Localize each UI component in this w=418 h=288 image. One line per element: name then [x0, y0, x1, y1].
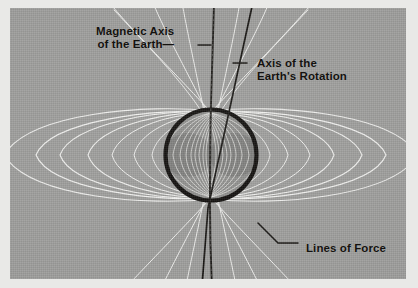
label-lines-of-force-text: Lines of Force — [306, 242, 386, 255]
figure-root: Magnetic Axis of the Earth— Axis of the … — [0, 0, 418, 288]
field-line-far — [182, 8, 204, 111]
leader-lines-of-force — [258, 223, 298, 243]
label-rotation-axis-line2: Earth's Rotation — [257, 70, 347, 83]
label-magnetic-axis: Magnetic Axis of the Earth— — [96, 25, 174, 50]
field-line-far — [106, 201, 208, 279]
label-rotation-axis: Axis of the Earth's Rotation — [257, 57, 347, 82]
field-line-far — [218, 8, 240, 111]
field-diagram-svg — [10, 8, 406, 279]
field-line-far — [214, 201, 316, 279]
label-lines-of-force: Lines of Force — [306, 242, 386, 255]
label-magnetic-axis-line2: of the Earth— — [96, 38, 174, 51]
label-rotation-axis-line1: Axis of the — [257, 57, 347, 70]
label-magnetic-axis-line1: Magnetic Axis — [96, 25, 174, 38]
photograph-plate: Magnetic Axis of the Earth— Axis of the … — [10, 8, 406, 279]
